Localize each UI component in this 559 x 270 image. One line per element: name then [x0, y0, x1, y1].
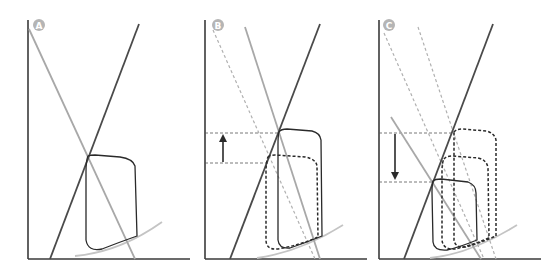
arrow-down-icon: [391, 134, 399, 180]
panel-label-b: B: [212, 19, 224, 31]
espvr-line: [50, 24, 139, 259]
panel-label-text: C: [386, 21, 393, 31]
panel-c: C: [379, 19, 541, 259]
panel-label-c: C: [383, 19, 395, 31]
arterial-elastance-line-shifted: [391, 117, 481, 259]
panel-label-text: B: [215, 21, 222, 31]
arterial-elastance-line-original: [213, 30, 315, 259]
diagram-canvas: A B C: [0, 0, 559, 270]
arterial-elastance-line-shifted: [245, 27, 320, 259]
edpvr-curve: [257, 225, 343, 258]
espvr-line: [404, 24, 493, 259]
espvr-line: [230, 24, 320, 259]
arterial-elastance-line-intermediate: [418, 27, 496, 259]
pv-loop-original: [266, 155, 318, 249]
panel-label-text: A: [36, 21, 43, 31]
panel-b: B: [205, 19, 367, 259]
edpvr-curve: [75, 222, 162, 256]
arrow-up-icon: [219, 134, 227, 162]
panel-a: A: [28, 19, 190, 259]
panel-label-a: A: [33, 19, 45, 31]
arterial-elastance-line-original: [384, 33, 484, 259]
arterial-elastance-line: [29, 29, 135, 259]
